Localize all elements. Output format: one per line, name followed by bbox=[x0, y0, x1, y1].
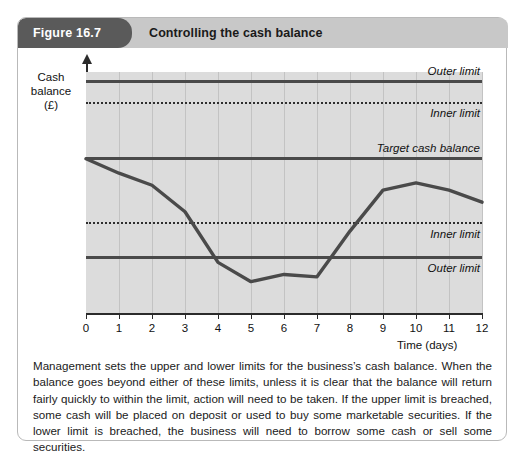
x-axis-tick bbox=[482, 313, 483, 319]
x-axis-tick bbox=[119, 313, 120, 319]
reference-label-inner-lower: Inner limit bbox=[430, 228, 480, 240]
chart-container: Cashbalance(£) Outer limitInner limitTar… bbox=[18, 48, 506, 361]
x-axis-tick bbox=[185, 313, 186, 319]
x-axis-tick bbox=[416, 313, 417, 319]
gridline-vertical bbox=[482, 72, 483, 313]
x-axis-label-0: 0 bbox=[71, 322, 101, 334]
figure-header: Figure 16.7 Controlling the cash balance bbox=[18, 18, 508, 48]
x-axis-label-8: 8 bbox=[335, 322, 365, 334]
x-axis-label-5: 5 bbox=[236, 322, 266, 334]
x-axis-label-4: 4 bbox=[203, 322, 233, 334]
x-axis-tick bbox=[317, 313, 318, 319]
reference-label-inner-upper: Inner limit bbox=[430, 107, 480, 119]
x-axis-label-1: 1 bbox=[104, 322, 134, 334]
x-axis-label-7: 7 bbox=[302, 322, 332, 334]
x-axis-label-12: 12 bbox=[467, 322, 497, 334]
y-axis-title: Cashbalance(£) bbox=[20, 70, 82, 112]
x-axis-label-3: 3 bbox=[170, 322, 200, 334]
reference-label-outer-lower: Outer limit bbox=[428, 262, 480, 274]
x-axis-label-9: 9 bbox=[368, 322, 398, 334]
reference-label-outer-upper: Outer limit bbox=[428, 65, 480, 77]
x-axis-title: Time (days) bbox=[397, 339, 457, 351]
x-axis-tick bbox=[86, 313, 87, 319]
x-axis-tick bbox=[251, 313, 252, 319]
figure-number-badge: Figure 16.7 bbox=[18, 18, 132, 48]
x-axis-label-10: 10 bbox=[401, 322, 431, 334]
y-axis-title-line: Cash bbox=[20, 70, 82, 84]
y-axis-title-line: balance bbox=[20, 84, 82, 98]
x-axis-tick bbox=[218, 313, 219, 319]
x-axis-label-11: 11 bbox=[434, 322, 464, 334]
figure-card: Figure 16.7 Controlling the cash balance… bbox=[17, 17, 507, 441]
x-axis-label-6: 6 bbox=[269, 322, 299, 334]
cash-balance-series bbox=[86, 72, 482, 313]
x-axis-tick bbox=[449, 313, 450, 319]
x-axis-tick bbox=[350, 313, 351, 319]
figure-caption: Management sets the upper and lower limi… bbox=[18, 358, 506, 456]
plot-area bbox=[86, 72, 483, 313]
x-axis-tick bbox=[152, 313, 153, 319]
reference-label-target: Target cash balance bbox=[377, 142, 480, 154]
x-axis-tick bbox=[383, 313, 384, 319]
figure-title: Controlling the cash balance bbox=[149, 18, 323, 48]
x-axis-label-2: 2 bbox=[137, 322, 167, 334]
x-axis-tick bbox=[284, 313, 285, 319]
y-axis-title-line: (£) bbox=[20, 98, 82, 112]
